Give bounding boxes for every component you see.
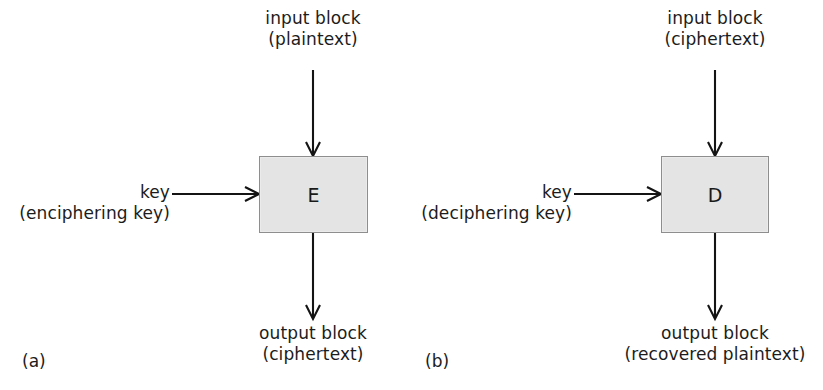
output-label-a: output block (ciphertext): [259, 323, 367, 365]
output-arrow-b: [705, 233, 725, 321]
input-label-a-line2: (plaintext): [265, 29, 360, 50]
input-label-b-line2: (ciphertext): [664, 29, 765, 50]
panel-encipher: input block (plaintext) key (enciphering…: [0, 0, 411, 390]
input-label-b: input block (ciphertext): [664, 8, 765, 50]
key-arrow-b: [574, 184, 663, 204]
output-label-b: output block (recovered plaintext): [625, 323, 806, 365]
output-arrow-a: [303, 233, 323, 321]
cipher-box-letter-e: E: [260, 185, 367, 205]
output-label-b-line2: (recovered plaintext): [625, 344, 806, 365]
input-arrow-b: [705, 70, 725, 158]
panel-tag-b: (b): [425, 351, 449, 372]
input-label-b-line1: input block: [664, 8, 765, 29]
key-label-a-line1: key: [19, 182, 170, 203]
cipher-box-letter-d: D: [662, 185, 768, 205]
panel-tag-a: (a): [22, 351, 46, 372]
cipher-box-decipher: D: [661, 156, 769, 233]
key-label-b-line1: key: [421, 182, 572, 203]
input-label-a-line1: input block: [265, 8, 360, 29]
key-arrow-a: [172, 184, 261, 204]
output-label-a-line1: output block: [259, 323, 367, 344]
key-label-a-line2: (enciphering key): [19, 203, 170, 224]
key-label-b: key (deciphering key): [421, 182, 572, 224]
panel-decipher: input block (ciphertext) key (decipherin…: [411, 0, 822, 390]
input-arrow-a: [303, 70, 323, 158]
input-label-a: input block (plaintext): [265, 8, 360, 50]
key-label-a: key (enciphering key): [19, 182, 170, 224]
output-label-a-line2: (ciphertext): [259, 344, 367, 365]
cipher-block-figure: input block (plaintext) key (enciphering…: [0, 0, 823, 390]
key-label-b-line2: (deciphering key): [421, 203, 572, 224]
cipher-box-encipher: E: [259, 156, 368, 233]
output-label-b-line1: output block: [625, 323, 806, 344]
